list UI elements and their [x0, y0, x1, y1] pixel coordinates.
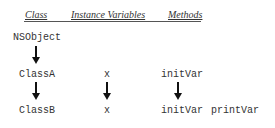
inheritance-arrow-icon	[32, 82, 40, 101]
inheritance-arrow-icon	[32, 46, 40, 64]
class-classa: ClassA	[19, 69, 55, 81]
classb-method-printvar: printVar	[211, 105, 259, 117]
classb-method-initvar: initVar	[161, 105, 203, 117]
class-classb: ClassB	[19, 105, 55, 117]
classa-method-initvar: initVar	[161, 69, 203, 81]
header-instance-variables: Instance Variables	[71, 9, 145, 20]
variable-inherit-arrow-icon	[103, 82, 111, 101]
header-methods: Methods	[168, 9, 202, 20]
method-inherit-arrow-icon	[174, 82, 182, 101]
header-class: Class	[25, 9, 47, 20]
header-rule	[24, 21, 201, 22]
class-nsobject: NSObject	[13, 32, 61, 44]
classb-variable-x: x	[104, 105, 110, 117]
classa-variable-x: x	[104, 69, 110, 81]
